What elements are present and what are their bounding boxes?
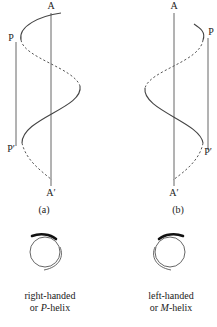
legend-italic-letter: M [161, 302, 169, 313]
helix-dashed-upper-a [21, 40, 80, 86]
legend-left-handed-line2: or M-helix [121, 302, 217, 314]
label-A-prime-b: A′ [169, 187, 178, 198]
helix-solid-top-b [194, 24, 204, 40]
label-A-prime-a: A′ [46, 187, 55, 198]
label-A-b: A [170, 0, 178, 11]
panel-a: A A′ P P′ (a) [7, 0, 80, 216]
helix-dashed-lower-a [22, 143, 52, 180]
legend-prefix: or [150, 302, 161, 313]
legend-right-handed: right-handed or P-helix [0, 290, 100, 314]
panel-b: A A′ P P′ (b) [145, 0, 214, 216]
label-P-b: P [208, 26, 214, 37]
legend-suffix: -helix [169, 302, 192, 313]
legend-prefix: or [30, 302, 41, 313]
legend-left-handed-line1: left-handed [121, 290, 217, 302]
legend-left-handed: left-handed or M-helix [121, 290, 217, 314]
legend-right-handed-line2: or P-helix [0, 302, 100, 314]
helix-diagram: A A′ P P′ (a) A A′ P P′ (b) [0, 0, 217, 327]
counterclockwise-spiral-icon [154, 234, 185, 270]
label-P-prime-b: P′ [204, 146, 212, 157]
label-A-a: A [47, 0, 55, 11]
clockwise-spiral-icon [30, 234, 61, 270]
legend-suffix: -helix [47, 302, 70, 313]
helix-dashed-lower-b [173, 143, 203, 180]
caption-a: (a) [38, 204, 49, 216]
label-P-prime-a: P′ [7, 143, 15, 154]
caption-b: (b) [172, 204, 184, 216]
helix-solid-top-a [21, 13, 61, 40]
label-P-a: P [8, 32, 14, 43]
legend-right-handed-line1: right-handed [0, 290, 100, 302]
